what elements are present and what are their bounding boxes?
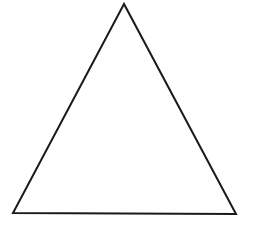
triangle-shape: [13, 4, 236, 214]
triangle-diagram: [0, 0, 256, 226]
